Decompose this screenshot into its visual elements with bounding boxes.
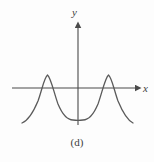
x-axis-label: x — [143, 83, 148, 94]
figure-panel: y x (d) — [0, 0, 154, 162]
figure-caption: (d) — [0, 137, 154, 148]
y-axis-label: y — [72, 7, 77, 18]
